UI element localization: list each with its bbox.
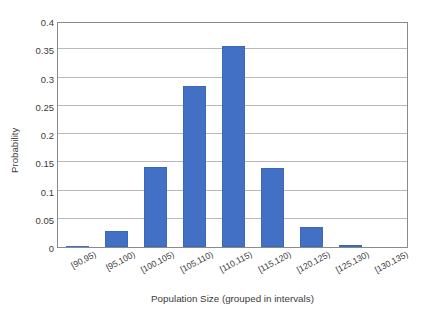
x-axis-tick-label: [110,115) xyxy=(218,249,254,274)
bar[interactable] xyxy=(222,46,245,247)
bar[interactable] xyxy=(183,86,206,247)
x-axis-tick-label: [125,130) xyxy=(333,249,370,275)
x-axis-tick-label: [105,110) xyxy=(178,249,214,275)
bar-slot xyxy=(214,23,253,247)
bar-slot xyxy=(253,23,292,247)
y-axis-tick-labels: 00.050.10.150.20.250.30.350.4 xyxy=(16,22,54,248)
y-axis-tick-label: 0.25 xyxy=(20,101,54,112)
y-axis-tick-label: 0.1 xyxy=(20,186,54,197)
bar-slot xyxy=(370,23,409,247)
y-axis-tick-label: 0.05 xyxy=(20,214,54,225)
x-axis-title: Population Size (grouped in intervals) xyxy=(57,293,408,304)
x-axis-tick-label: [95,100) xyxy=(104,249,137,273)
x-axis-tick-labels: [90,95)[95,100)[100,105)[105,110)[110,11… xyxy=(57,249,408,297)
probability-bar-chart: Probability 00.050.10.150.20.250.30.350.… xyxy=(0,0,427,316)
bar-slot xyxy=(175,23,214,247)
bars-group xyxy=(58,23,407,247)
bar-slot xyxy=(136,23,175,247)
bar-slot xyxy=(292,23,331,247)
y-axis-tick-label: 0.3 xyxy=(20,73,54,84)
bar[interactable] xyxy=(66,246,89,247)
bar[interactable] xyxy=(261,168,284,247)
x-axis-tick-label: [115,120) xyxy=(256,249,292,275)
bar-slot xyxy=(331,23,370,247)
bar-slot xyxy=(58,23,97,247)
bar-slot xyxy=(97,23,136,247)
x-axis-tick-label: [120,125) xyxy=(294,249,331,275)
x-axis-tick-label: [100,105) xyxy=(138,249,175,275)
bar[interactable] xyxy=(144,167,167,247)
bar[interactable] xyxy=(105,231,128,247)
y-axis-tick-label: 0.35 xyxy=(20,45,54,56)
bar[interactable] xyxy=(339,245,362,247)
bar[interactable] xyxy=(300,227,323,247)
x-axis-tick-label: [130,135) xyxy=(372,249,409,275)
y-axis-tick-label: 0.15 xyxy=(20,158,54,169)
x-axis-tick-label: [90,95) xyxy=(69,249,97,270)
y-axis-tick-label: 0.2 xyxy=(20,130,54,141)
y-axis-tick-label: 0.4 xyxy=(20,17,54,28)
plot-area xyxy=(57,22,408,248)
y-axis-tick-label: 0 xyxy=(20,243,54,254)
